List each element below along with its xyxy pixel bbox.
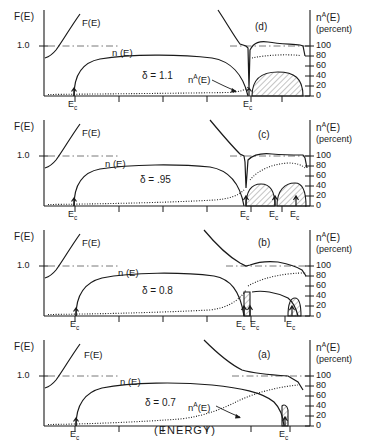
ec-marker-group-d — [72, 88, 252, 96]
curve-n-e-c — [74, 165, 244, 206]
right-tick-0-d: 0 — [316, 91, 321, 100]
right-tick-40-c: 40 — [316, 181, 326, 190]
panel-id-c: (c) — [258, 130, 270, 140]
curve-na-e-d-right — [252, 55, 300, 58]
right-axis-unit-b: (percent) — [316, 245, 352, 254]
right-tick-100-d: 100 — [316, 41, 331, 50]
right-tick-80-c: 80 — [316, 161, 326, 170]
right-tick-20-b: 20 — [316, 301, 326, 310]
shaded-dome-c-1 — [246, 184, 275, 206]
panel-id-d: (d) — [255, 22, 267, 32]
right-tick-40-a: 40 — [316, 401, 326, 410]
curve-f-e-a-right — [204, 340, 303, 390]
x-axis-label: (ENERGY) — [0, 424, 370, 436]
curve-na-e-d — [48, 86, 249, 95]
delta-label-a: δ = 0.7 — [145, 398, 176, 408]
right-tick-100-b: 100 — [316, 261, 331, 270]
curve-na-e-c — [48, 190, 244, 205]
right-tick-80-b: 80 — [316, 271, 326, 280]
right-axis-unit-c: (percent) — [316, 135, 352, 144]
curve-label-n-a: n (E) — [120, 377, 141, 387]
curve-na-e-b-right — [248, 273, 306, 286]
curve-label-n-c: n (E) — [105, 159, 126, 169]
right-tick-60-b: 60 — [316, 281, 326, 290]
panel-b-plot — [0, 220, 370, 330]
delta-label-d: δ = 1.1 — [142, 71, 173, 81]
curve-label-na-d: nA(E) — [188, 74, 210, 85]
left-axis-label-d: F(E) — [14, 12, 34, 22]
delta-label-c: δ = .95 — [140, 175, 171, 185]
curve-label-f-d: F(E) — [82, 18, 100, 28]
panel-d: F(E) nA(E) (percent) 1.0 100 80 60 40 20… — [0, 0, 370, 110]
right-axis-label-d: nA(E) — [316, 12, 340, 23]
shaded-dome-d — [252, 72, 303, 96]
panel-c-plot — [0, 110, 370, 220]
panel-id-b: (b) — [258, 238, 270, 248]
right-tick-60-a: 60 — [316, 391, 326, 400]
right-axis-label-b: nA(E) — [316, 232, 340, 243]
curve-f-e-d-left — [45, 14, 80, 58]
right-tick-100-a: 100 — [316, 371, 331, 380]
left-tick-label-b: 1.0 — [17, 261, 30, 270]
right-tick-60-c: 60 — [316, 171, 326, 180]
left-axis-label-a: F(E) — [14, 342, 34, 352]
right-axis-label-a: nA(E) — [316, 342, 340, 353]
curve-f-e-c-left — [45, 124, 80, 168]
right-tick-40-d: 40 — [316, 71, 326, 80]
right-tick-40-b: 40 — [316, 291, 326, 300]
delta-label-b: δ = 0.8 — [142, 286, 173, 296]
panel-b: F(E) nA(E) (percent) 1.0 100 80 60 40 20… — [0, 220, 370, 330]
panel-d-plot — [0, 0, 370, 110]
shaded-bar-b-1 — [244, 292, 250, 316]
right-axis-unit-d: (percent) — [316, 25, 352, 34]
panel-id-a: (a) — [258, 350, 270, 360]
panel-c: F(E) nA(E) (percent) 1.0 100 80 60 40 20… — [0, 110, 370, 220]
right-tick-80-a: 80 — [316, 381, 326, 390]
right-tick-20-d: 20 — [316, 81, 326, 90]
right-axis-label-c: nA(E) — [316, 122, 340, 133]
right-tick-100-c: 100 — [316, 151, 331, 160]
curve-label-n-d: n (E) — [112, 48, 133, 58]
figure-root: F(E) nA(E) (percent) 1.0 100 80 60 40 20… — [0, 0, 370, 448]
curve-n-e-a — [76, 383, 284, 426]
curve-na-e-c-right — [250, 163, 305, 180]
curve-label-f-c: F(E) — [82, 128, 100, 138]
curve-label-na-a: nA(E) — [188, 402, 210, 413]
right-tick-60-d: 60 — [316, 61, 326, 70]
curve-label-f-a: F(E) — [84, 350, 102, 360]
right-tick-20-a: 20 — [316, 411, 326, 420]
left-tick-label-d: 1.0 — [17, 41, 30, 50]
bottom-tick-group — [75, 206, 282, 212]
shaded-dome-c-2 — [277, 183, 306, 206]
left-axis-label-b: F(E) — [14, 232, 34, 242]
left-axis-label-c: F(E) — [14, 122, 34, 132]
curve-f-e-b-left — [45, 234, 80, 278]
curve-f-e-b-right — [204, 230, 306, 276]
right-tick-20-c: 20 — [316, 191, 326, 200]
left-tick-label-a: 1.0 — [17, 371, 30, 380]
right-axis-unit-a: (percent) — [316, 355, 352, 364]
left-tick-label-c: 1.0 — [17, 151, 30, 160]
right-tick-0-c: 0 — [316, 201, 321, 210]
curve-f-e-a-left — [45, 344, 80, 388]
right-tick-80-d: 80 — [316, 51, 326, 60]
curve-label-n-b: n (E) — [118, 268, 139, 278]
curve-label-f-b: F(E) — [82, 238, 100, 248]
right-tick-0-b: 0 — [316, 311, 321, 320]
